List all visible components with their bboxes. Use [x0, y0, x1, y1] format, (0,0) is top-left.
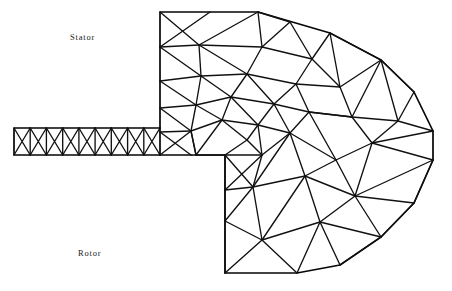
mesh-interior-edges-bottom [225, 176, 414, 273]
stator-label: Stator [70, 32, 95, 42]
mesh-interior-edges-upper-left [160, 12, 258, 155]
mesh-outer-boundary [160, 12, 433, 273]
rotor-label: Rotor [78, 248, 101, 258]
mesh-figure [0, 0, 452, 291]
mesh-interior-edges-junction [191, 104, 433, 160]
mesh-interior-edges-lower [225, 133, 433, 203]
mesh-interior-edges-middle [191, 60, 433, 131]
mesh-interior-edges-upper-middle [199, 12, 381, 87]
air-gap-strip [14, 128, 160, 155]
